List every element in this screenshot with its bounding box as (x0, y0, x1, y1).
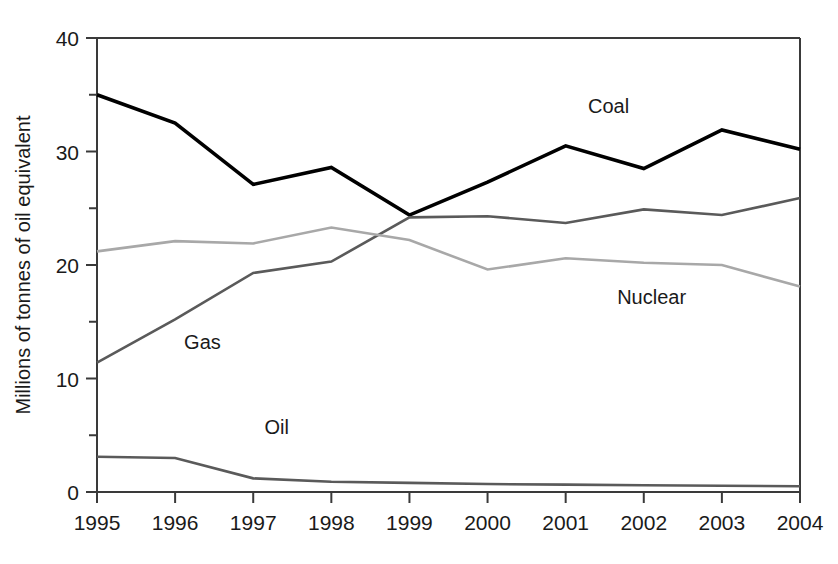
x-tick-label: 2001 (542, 511, 589, 534)
line-chart-figure: 0102030401995199619971998199920002001200… (0, 0, 838, 564)
labels-group: Millions of tonnes of oil equivalentCoal… (12, 95, 686, 438)
x-tick-label: 2000 (464, 511, 511, 534)
series-group (97, 95, 800, 487)
series-line-nuclear (97, 228, 800, 287)
y-axis-title: Millions of tonnes of oil equivalent (12, 115, 34, 415)
series-label-oil: Oil (264, 416, 288, 438)
series-label-gas: Gas (184, 331, 221, 353)
x-tick-label: 1997 (230, 511, 277, 534)
y-tick-label: 30 (56, 141, 79, 164)
x-tick-label: 2004 (777, 511, 824, 534)
series-label-coal: Coal (588, 95, 629, 117)
y-tick-label: 20 (56, 254, 79, 277)
series-label-nuclear: Nuclear (617, 286, 686, 308)
series-line-oil (97, 457, 800, 487)
x-tick-label: 1995 (74, 511, 121, 534)
x-tick-label: 2002 (620, 511, 667, 534)
y-tick-label: 0 (67, 481, 79, 504)
x-tick-label: 1999 (386, 511, 433, 534)
y-tick-label: 40 (56, 27, 79, 50)
series-line-coal (97, 95, 800, 215)
x-tick-label: 1998 (308, 511, 355, 534)
x-tick-label: 1996 (152, 511, 199, 534)
chart-canvas: 0102030401995199619971998199920002001200… (0, 0, 838, 564)
y-tick-label: 10 (56, 368, 79, 391)
x-tick-label: 2003 (699, 511, 746, 534)
